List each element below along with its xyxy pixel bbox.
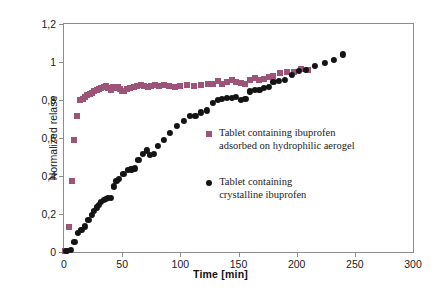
data-point-series-1 (312, 63, 318, 69)
data-point-series-1 (132, 165, 138, 171)
plot-area: 00,20,40,60,811,2 050100150200250300 Tab… (63, 23, 414, 253)
legend-label-aerogel-line2: adsorbed on hydrophilic aerogel (219, 140, 355, 151)
data-point-series-1 (340, 51, 346, 57)
data-point-series-0 (66, 224, 72, 230)
data-point-series-1 (266, 84, 272, 90)
y-tick-mark (59, 176, 64, 177)
data-point-series-1 (204, 107, 210, 113)
data-point-series-1 (192, 113, 198, 119)
data-point-series-1 (71, 238, 77, 244)
data-point-series-1 (116, 176, 122, 182)
data-point-series-1 (111, 183, 117, 189)
data-point-series-1 (296, 67, 302, 73)
y-tick-label: 1,2 (41, 18, 56, 30)
data-point-series-1 (107, 195, 113, 201)
x-tick-mark (122, 252, 123, 257)
data-point-series-0 (198, 82, 204, 88)
y-tick-mark (59, 138, 64, 139)
legend-label-crystalline: Tablet containing crystalline ibuprofen (219, 176, 306, 201)
legend-marker-circle-icon (206, 180, 212, 186)
data-point-series-1 (174, 123, 180, 129)
x-axis-title: Time [min] (0, 268, 441, 280)
data-point-series-1 (150, 151, 156, 157)
y-tick-mark (59, 62, 64, 63)
data-point-series-0 (184, 82, 190, 88)
x-tick-mark (297, 252, 298, 257)
data-point-series-0 (277, 70, 283, 76)
data-point-series-0 (74, 113, 80, 119)
data-point-series-1 (289, 72, 295, 78)
data-point-series-0 (69, 178, 75, 184)
y-tick-mark (59, 214, 64, 215)
data-point-series-1 (321, 60, 327, 66)
data-point-series-1 (68, 247, 74, 253)
y-tick-label: 0 (50, 246, 56, 258)
y-tick-mark (59, 100, 64, 101)
data-point-series-1 (135, 157, 141, 163)
data-point-series-0 (71, 137, 77, 143)
legend-label-crystalline-line2: crystalline ibuprofen (219, 189, 306, 200)
data-point-series-0 (177, 83, 183, 89)
data-point-series-1 (242, 96, 248, 102)
legend-entry-crystalline: Tablet containing crystalline ibuprofen (206, 176, 306, 201)
data-point-series-0 (191, 83, 197, 89)
x-tick-mark (355, 252, 356, 257)
x-tick-mark (239, 252, 240, 257)
y-tick-mark (59, 24, 64, 25)
x-tick-mark (180, 252, 181, 257)
data-point-series-1 (282, 77, 288, 83)
data-point-series-1 (82, 223, 88, 229)
y-tick-label: 1 (50, 56, 56, 68)
legend-label-aerogel-line1: Tablet containing ibuprofen (219, 127, 335, 138)
legend-marker-square-icon (206, 131, 212, 137)
legend-label-crystalline-line1: Tablet containing (219, 176, 292, 187)
legend-entry-aerogel: Tablet containing ibuprofen adsorbed on … (206, 127, 355, 152)
data-point-series-1 (155, 143, 161, 149)
data-point-series-1 (181, 118, 187, 124)
data-point-series-1 (167, 130, 173, 136)
legend-label-aerogel: Tablet containing ibuprofen adsorbed on … (219, 127, 355, 152)
chart-figure: 00,20,40,60,811,2 050100150200250300 Tab… (0, 0, 441, 294)
y-axis-title: Normalized relase (47, 96, 59, 181)
y-tick-label: 0,2 (41, 208, 56, 220)
data-point-series-1 (331, 57, 337, 63)
data-point-series-1 (161, 137, 167, 143)
